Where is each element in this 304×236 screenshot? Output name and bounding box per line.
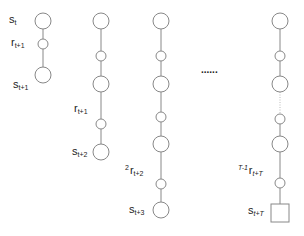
reward-node bbox=[156, 112, 166, 122]
state-node bbox=[153, 13, 169, 29]
label-s-tT: st+T bbox=[248, 205, 264, 217]
ellipsis: ...... bbox=[201, 64, 218, 75]
reward-node bbox=[38, 39, 48, 49]
state-node bbox=[93, 144, 109, 160]
backup-column-4 bbox=[271, 13, 289, 222]
label-sub: t+2 bbox=[78, 151, 88, 158]
state-node bbox=[93, 13, 109, 29]
label-r-t1-col2: rt+1 bbox=[74, 103, 88, 115]
label-r2-t2: 2rt+2 bbox=[125, 164, 144, 177]
backup-diagram bbox=[0, 0, 304, 236]
label-s-t1: st+1 bbox=[13, 79, 28, 91]
state-node bbox=[153, 136, 169, 152]
state-node bbox=[153, 202, 169, 218]
state-node bbox=[35, 13, 51, 29]
label-sub: t bbox=[15, 19, 17, 26]
state-node bbox=[153, 76, 169, 92]
reward-node bbox=[156, 51, 166, 61]
reward-node bbox=[96, 119, 106, 129]
label-sup: 2 bbox=[125, 164, 129, 171]
reward-node bbox=[275, 114, 285, 124]
label-sup: T-1 bbox=[238, 164, 248, 171]
reward-node bbox=[275, 178, 285, 188]
label-sub: t+1 bbox=[78, 108, 88, 115]
state-node bbox=[272, 136, 288, 152]
reward-node bbox=[96, 51, 106, 61]
label-sub: t+1 bbox=[19, 84, 29, 91]
state-node bbox=[35, 67, 51, 83]
label-sub: t+3 bbox=[135, 209, 145, 216]
terminal-state-square bbox=[271, 204, 289, 222]
label-sub: t+T bbox=[253, 170, 263, 177]
label-rT-tT: T-1rt+T bbox=[238, 164, 263, 177]
state-node bbox=[272, 76, 288, 92]
label-sub: t+1 bbox=[15, 42, 25, 49]
backup-column-2 bbox=[93, 13, 109, 160]
label-sub: t+2 bbox=[134, 170, 144, 177]
state-node bbox=[272, 13, 288, 29]
label-sub: t+T bbox=[254, 210, 264, 217]
reward-node bbox=[275, 51, 285, 61]
backup-column-3 bbox=[153, 13, 169, 218]
label-s-t: st bbox=[9, 14, 16, 26]
label-s-t2: st+2 bbox=[72, 146, 87, 158]
label-r-t1: rt+1 bbox=[11, 37, 25, 49]
reward-node bbox=[156, 179, 166, 189]
label-s-t3: st+3 bbox=[129, 204, 144, 216]
state-node bbox=[93, 76, 109, 92]
backup-column-1 bbox=[35, 13, 51, 83]
